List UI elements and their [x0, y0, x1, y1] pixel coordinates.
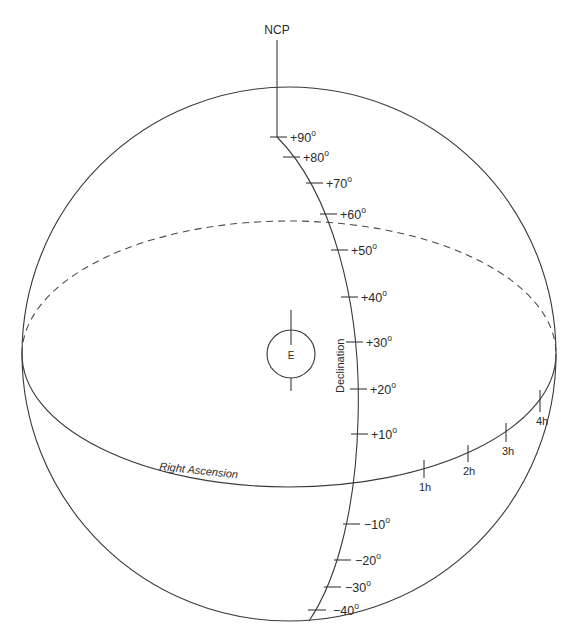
- svg-text:+90o: +90o: [290, 128, 316, 145]
- svg-text:+50o: +50o: [351, 241, 377, 258]
- right-ascension-ticks: 1h 2h 3h 4h: [419, 390, 548, 493]
- svg-text:3h: 3h: [502, 445, 514, 457]
- svg-text:+70o: +70o: [326, 174, 352, 191]
- svg-text:+30o: +30o: [366, 333, 392, 350]
- svg-text:−30o: −30o: [345, 578, 371, 595]
- svg-text:4h: 4h: [536, 415, 548, 427]
- declination-tick: −10o: [343, 515, 390, 532]
- svg-text:+60o: +60o: [340, 205, 366, 222]
- declination-tick: −40o: [308, 601, 359, 618]
- right-ascension-axis-label: Right Ascension: [159, 460, 239, 480]
- celestial-sphere-diagram: NCP E Declination Right Ascension +90o +…: [0, 0, 572, 639]
- ra-tick: 3h: [502, 423, 514, 457]
- ncp-label: NCP: [264, 23, 289, 37]
- svg-text:+20o: +20o: [370, 380, 396, 397]
- declination-tick: −30o: [324, 578, 371, 595]
- svg-text:−40o: −40o: [333, 601, 359, 618]
- svg-text:−20o: −20o: [355, 551, 381, 568]
- svg-text:+80o: +80o: [303, 148, 329, 165]
- ra-tick: 1h: [419, 460, 431, 493]
- celestial-equator-back: [22, 221, 556, 354]
- declination-tick: +20o: [350, 380, 396, 397]
- svg-text:1h: 1h: [419, 481, 431, 493]
- declination-axis-label: Declination: [334, 339, 346, 393]
- svg-text:+40o: +40o: [361, 288, 387, 305]
- svg-text:2h: 2h: [463, 465, 475, 477]
- celestial-equator-front: [22, 354, 556, 487]
- declination-tick: −20o: [334, 551, 381, 568]
- declination-tick: +80o: [283, 148, 329, 165]
- declination-tick: +30o: [346, 333, 392, 350]
- svg-text:−10o: −10o: [364, 515, 390, 532]
- svg-text:+10o: +10o: [371, 425, 397, 442]
- declination-tick: +70o: [306, 174, 352, 191]
- earth-label: E: [288, 350, 295, 361]
- declination-tick: +50o: [331, 241, 377, 258]
- declination-tick: +60o: [320, 205, 366, 222]
